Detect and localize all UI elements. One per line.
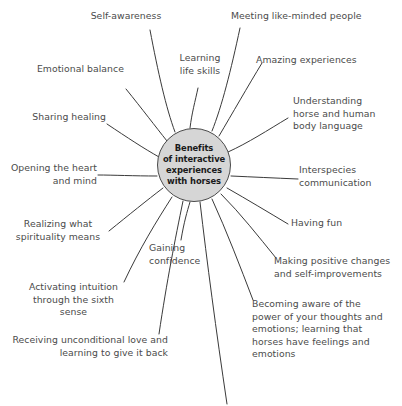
spoke-learning-life-skills	[190, 88, 198, 128]
spoke-long-bottom	[200, 202, 227, 404]
label-understanding-body-language[interactable]: Understanding horse and human body langu…	[293, 95, 401, 133]
label-learning-life-skills[interactable]: Learning life skills	[170, 52, 230, 77]
spoke-making-positive-changes	[221, 194, 276, 258]
spoke-emotional-balance	[126, 89, 167, 141]
spoke-meeting-like-minded-people	[212, 28, 240, 131]
spoke-interspecies-communication	[231, 176, 298, 179]
label-activating-intuition[interactable]: Activating intuition through the sixth s…	[20, 281, 127, 319]
spoke-activating-intuition	[124, 197, 172, 282]
spoke-self-awareness	[150, 30, 175, 132]
spoke-receiving-unconditional-love	[159, 201, 183, 334]
label-meeting-like-minded-people[interactable]: Meeting like-minded people	[231, 10, 401, 23]
spoke-having-fun	[227, 188, 288, 224]
spoke-gaining-confidence	[181, 202, 190, 240]
label-opening-the-heart[interactable]: Opening the heart and mind	[0, 162, 97, 187]
label-gaining-confidence[interactable]: Gaining confidence	[149, 242, 219, 267]
label-having-fun[interactable]: Having fun	[291, 217, 386, 230]
hub-label: Benefits of interactive experiences with…	[161, 143, 227, 188]
label-interspecies-communication[interactable]: Interspecies communication	[299, 164, 399, 189]
label-amazing-experiences[interactable]: Amazing experiences	[256, 54, 396, 67]
hub-circle: Benefits of interactive experiences with…	[157, 128, 231, 202]
label-self-awareness[interactable]: Self-awareness	[66, 10, 186, 23]
label-becoming-aware-of-power[interactable]: Becoming aware of the power of your thou…	[252, 298, 402, 361]
mind-map-diagram: Benefits of interactive experiences with…	[0, 0, 402, 406]
label-making-positive-changes[interactable]: Making positive changes and self-improve…	[274, 255, 402, 280]
label-realizing-spirituality[interactable]: Realizing what spirituality means	[8, 218, 108, 243]
spoke-understanding-body-language	[228, 118, 288, 152]
label-receiving-unconditional-love[interactable]: Receiving unconditional love and learnin…	[8, 334, 168, 359]
spoke-opening-the-heart	[98, 175, 157, 176]
label-emotional-balance[interactable]: Emotional balance	[12, 63, 124, 76]
spoke-sharing-healing	[107, 124, 159, 157]
spoke-realizing-spirituality	[109, 188, 163, 231]
label-sharing-healing[interactable]: Sharing healing	[10, 111, 106, 124]
